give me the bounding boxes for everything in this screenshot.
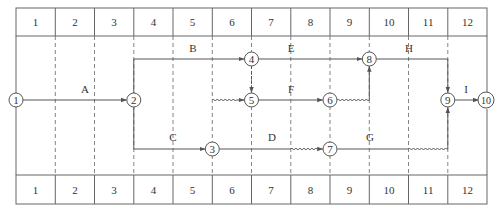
bottom-scale-8: 8 [308, 184, 314, 196]
free-float-wavy-6-8 [337, 66, 369, 101]
activity-label-i: I [464, 83, 468, 95]
bottom-time-scale: 1 2 3 4 5 6 7 8 9 10 11 12 [16, 175, 487, 204]
activity-label-e: E [288, 42, 295, 54]
activity-d-arrow [220, 148, 323, 150]
svg-text:4: 4 [249, 53, 255, 65]
activity-label-h: H [405, 42, 413, 54]
top-scale-11: 11 [423, 16, 434, 28]
node-5: 5 [245, 93, 259, 107]
node-1: 1 [9, 93, 23, 107]
activity-label-f: F [288, 83, 294, 95]
bottom-scale-12: 12 [462, 184, 473, 196]
bottom-scale-6: 6 [229, 184, 235, 196]
top-scale-6: 6 [229, 16, 235, 28]
bottom-scale-10: 10 [383, 184, 395, 196]
top-scale-3: 3 [111, 16, 117, 28]
bottom-scale-4: 4 [151, 184, 157, 196]
top-scale-1: 1 [33, 16, 39, 28]
activity-label-c: C [169, 131, 176, 143]
network-diagram: 1 2 3 4 5 6 7 8 9 10 11 12 1 2 3 [0, 0, 500, 212]
top-scale-2: 2 [72, 16, 78, 28]
node-3: 3 [205, 142, 219, 156]
node-8: 8 [362, 52, 376, 66]
svg-text:5: 5 [249, 94, 255, 106]
activity-label-b: B [189, 42, 196, 54]
svg-text:7: 7 [327, 143, 333, 155]
svg-text:6: 6 [327, 94, 333, 106]
bottom-scale-2: 2 [72, 184, 78, 196]
free-float-wavy-to-5 [212, 99, 244, 101]
node-7: 7 [323, 142, 337, 156]
activity-b-arrow [134, 59, 244, 93]
bottom-scale-1: 1 [33, 184, 39, 196]
top-time-scale: 1 2 3 4 5 6 7 8 9 10 11 12 [16, 8, 487, 36]
top-scale-9: 9 [347, 16, 353, 28]
top-scale-8: 8 [308, 16, 314, 28]
node-4: 4 [245, 52, 259, 66]
node-10: 10 [478, 92, 494, 108]
top-scale-5: 5 [190, 16, 196, 28]
svg-text:2: 2 [131, 94, 137, 106]
node-9: 9 [441, 93, 455, 107]
bottom-scale-9: 9 [347, 184, 353, 196]
activity-g-arrow [337, 108, 448, 151]
node-2: 2 [127, 93, 141, 107]
node-6: 6 [323, 93, 337, 107]
top-scale-12: 12 [462, 16, 473, 28]
activity-label-a: A [81, 83, 89, 95]
svg-text:9: 9 [445, 94, 451, 106]
svg-text:8: 8 [367, 53, 373, 65]
activity-label-g: G [366, 131, 374, 143]
top-scale-10: 10 [383, 16, 395, 28]
bottom-scale-3: 3 [111, 184, 117, 196]
svg-text:3: 3 [210, 143, 216, 155]
top-scale-7: 7 [268, 16, 274, 28]
bottom-scale-7: 7 [268, 184, 274, 196]
bottom-scale-11: 11 [423, 184, 434, 196]
top-scale-4: 4 [151, 16, 157, 28]
svg-text:1: 1 [13, 94, 19, 106]
activity-h-arrow [377, 59, 448, 93]
bottom-scale-5: 5 [190, 184, 196, 196]
svg-text:10: 10 [481, 95, 491, 106]
activity-label-d: D [268, 131, 276, 143]
